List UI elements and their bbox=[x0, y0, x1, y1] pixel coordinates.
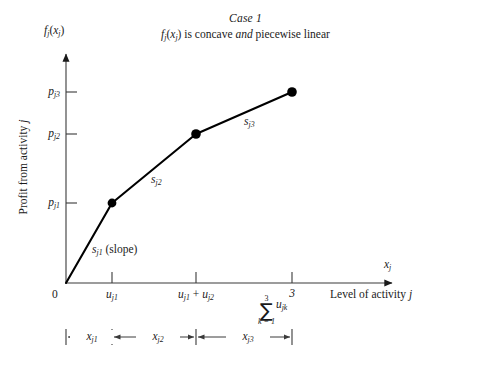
x-tick-label-u-j1: uj1 bbox=[82, 288, 142, 302]
segment-label-s-j2: sj2 bbox=[151, 173, 162, 187]
summation-operand: ujk bbox=[276, 298, 287, 312]
breakpoint-marker-3 bbox=[287, 87, 297, 97]
breakpoint-marker-1 bbox=[108, 199, 117, 208]
dimension-label-x-j2: xj2 bbox=[136, 330, 180, 344]
x-tick-label-sum-u-jk: 3 ∑ k = 1 ujk bbox=[258, 295, 287, 326]
origin-label: 0 bbox=[52, 288, 58, 300]
dimension-label-x-j3: xj3 bbox=[226, 330, 270, 344]
y-tick-label-p-j1: pj1 bbox=[20, 196, 60, 210]
y-tick-label-p-j3: pj3 bbox=[20, 85, 60, 99]
x-axis-title: Level of activity j bbox=[330, 288, 412, 300]
y-axis-title: Profit from activity j bbox=[17, 97, 29, 237]
dimension-label-x-j1: xj1 bbox=[70, 330, 114, 344]
summation-stack: 3 ∑ k = 1 bbox=[258, 295, 275, 326]
x-axis-variable-label: xj bbox=[384, 258, 391, 272]
sigma-icon: ∑ bbox=[260, 302, 273, 318]
y-axis-variable-label: fj(xj) bbox=[44, 24, 64, 38]
y-tick-label-p-j2: pj2 bbox=[20, 127, 60, 141]
plot-canvas bbox=[0, 0, 491, 368]
x-tick-label-u-j1-plus-u-j2: uj1 + uj2 bbox=[146, 288, 246, 302]
summation-lower-limit: k = 1 bbox=[258, 318, 275, 326]
segment-label-s-j3: sj3 bbox=[244, 115, 255, 129]
breakpoint-marker-2 bbox=[191, 129, 201, 139]
segment-label-s-j1: sj1 (slope) bbox=[92, 243, 137, 257]
figure-case-1: Case 1 fj(xj) is concave and piecewise l… bbox=[0, 0, 491, 368]
x-axis-ticks bbox=[112, 272, 292, 283]
y-axis-ticks bbox=[66, 92, 77, 203]
